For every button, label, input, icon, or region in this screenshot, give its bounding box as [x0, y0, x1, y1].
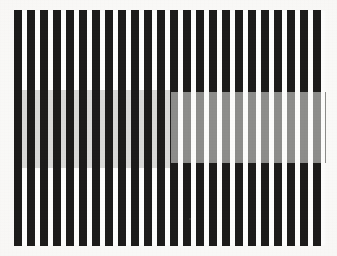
illusion-figure-root: [0, 0, 337, 256]
grating-light-gaps-right: [171, 92, 326, 163]
grating-plate: [14, 10, 326, 246]
scan-speck: [189, 218, 191, 220]
